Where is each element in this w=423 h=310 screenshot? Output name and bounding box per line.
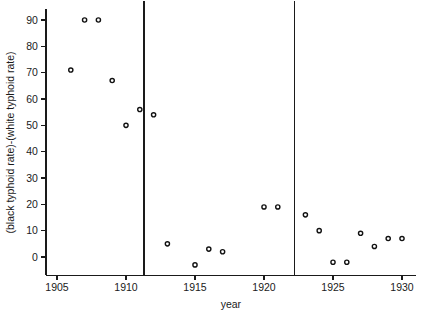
- data-point: [331, 260, 335, 264]
- data-point: [110, 78, 114, 82]
- data-point: [303, 213, 307, 217]
- y-tick-label: 10: [26, 224, 38, 236]
- data-point: [359, 231, 363, 235]
- data-point: [138, 107, 142, 111]
- data-point: [276, 205, 280, 209]
- data-point: [193, 263, 197, 267]
- y-tick-label: 90: [26, 14, 38, 26]
- x-tick-label: 1910: [114, 281, 138, 293]
- plot-canvas: 0102030405060708090 19051910191519201925…: [0, 0, 423, 310]
- data-point: [262, 205, 266, 209]
- data-point: [207, 247, 211, 251]
- y-axis-title: (black typhoid rate)-(white typhoid rate…: [4, 51, 16, 233]
- y-tick-label: 30: [26, 172, 38, 184]
- x-tick-label: 1920: [252, 281, 276, 293]
- data-point: [124, 123, 128, 127]
- data-point: [400, 236, 404, 240]
- y-tick-label: 0: [32, 251, 38, 263]
- data-point: [165, 242, 169, 246]
- y-tick-label: 60: [26, 93, 38, 105]
- scatter-chart: 0102030405060708090 19051910191519201925…: [0, 0, 423, 310]
- x-axis-title: year: [221, 298, 242, 310]
- data-point: [152, 113, 156, 117]
- y-tick-label: 40: [26, 145, 38, 157]
- x-tick-label: 1915: [183, 281, 207, 293]
- data-point: [386, 236, 390, 240]
- data-point: [372, 244, 376, 248]
- x-axis-ticks: 190519101915192019251930: [45, 275, 414, 293]
- x-tick-label: 1925: [321, 281, 345, 293]
- data-points: [69, 18, 404, 267]
- data-point: [221, 250, 225, 254]
- y-tick-label: 20: [26, 198, 38, 210]
- data-point: [317, 229, 321, 233]
- data-point: [83, 18, 87, 22]
- x-tick-label: 1930: [390, 281, 414, 293]
- y-tick-label: 80: [26, 40, 38, 52]
- annotation-vertical-lines: [144, 1, 294, 275]
- data-point: [96, 18, 100, 22]
- data-point: [69, 68, 73, 72]
- y-tick-label: 70: [26, 66, 38, 78]
- data-point: [345, 260, 349, 264]
- y-axis-ticks: 0102030405060708090: [26, 14, 46, 263]
- x-tick-label: 1905: [45, 281, 69, 293]
- y-tick-label: 50: [26, 119, 38, 131]
